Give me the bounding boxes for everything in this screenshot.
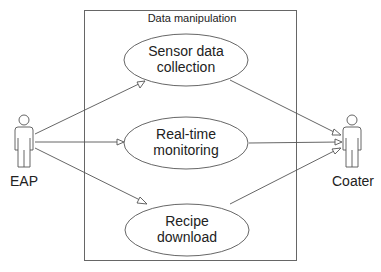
association-uc3-coater xyxy=(230,148,340,204)
association-uc1-line xyxy=(35,148,146,203)
arrowhead-coater-3 xyxy=(332,148,341,154)
use-case-label-line2: monitoring xyxy=(153,142,218,158)
actor-coater[interactable]: Coater xyxy=(332,115,374,189)
actor-eap[interactable]: EAP xyxy=(10,115,38,189)
arrowhead-coater-1 xyxy=(332,129,341,135)
use-case-label-line2: download xyxy=(157,229,217,245)
use-case-real-time-monitoring[interactable]: Real-time monitoring xyxy=(124,117,248,169)
actor-label-coater: Coater xyxy=(332,173,374,189)
use-case-sensor-data-collection[interactable]: Sensor data collection xyxy=(124,34,248,86)
use-case-recipe-download[interactable]: Recipe download xyxy=(125,204,249,256)
use-case-label-line2: collection xyxy=(157,59,215,75)
arrowhead-uc3 xyxy=(137,197,147,204)
use-case-label-line1: Recipe xyxy=(165,213,209,229)
system-title: Data manipulation xyxy=(148,12,237,24)
use-case-label-line1: Real-time xyxy=(156,126,216,142)
association-uc1-coater xyxy=(230,80,340,135)
use-case-diagram: Data manipulation Sensor data collection… xyxy=(0,0,381,272)
actor-figure-icon xyxy=(15,115,33,167)
use-case-label-line1: Sensor data xyxy=(148,43,224,59)
association-uc2-coater xyxy=(249,142,340,143)
actor-label-eap: EAP xyxy=(10,173,38,189)
arrowhead-coater-2 xyxy=(335,139,342,145)
actor-figure-icon xyxy=(343,115,361,167)
arrowhead-uc1 xyxy=(137,81,145,88)
arrowhead-uc2 xyxy=(117,139,124,145)
association-eap-uc1 xyxy=(35,81,145,134)
